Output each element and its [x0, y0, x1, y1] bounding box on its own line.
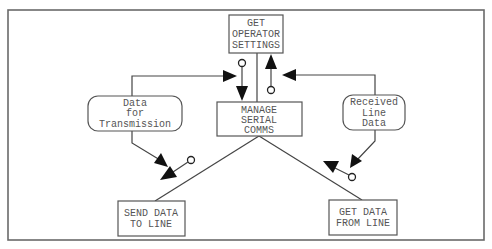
couple-circle-icon — [239, 60, 246, 67]
couple-circle-icon — [349, 174, 356, 181]
couple-circle-icon — [268, 87, 275, 94]
svg-text:TO LINE: TO LINE — [130, 219, 172, 230]
flow-transmission-to-send — [132, 131, 160, 160]
svg-text:Received: Received — [350, 97, 398, 108]
svg-text:SETTINGS: SETTINGS — [232, 40, 280, 51]
connector-manage-to-getdata — [259, 136, 362, 200]
store-received-line-data: Received Line Data — [343, 95, 405, 130]
arrowhead-upleft-icon — [323, 161, 339, 173]
svg-text:GET: GET — [247, 18, 265, 29]
structure-chart-diagram: GET OPERATOR SETTINGS MANAGE SERIAL COMM… — [0, 0, 492, 249]
module-send-data-to-line: SEND DATA TO LINE — [118, 201, 185, 236]
couple-circle-icon — [188, 157, 195, 164]
svg-text:for: for — [126, 108, 144, 119]
svg-text:SEND DATA: SEND DATA — [124, 208, 178, 219]
arrowhead-down-icon — [236, 86, 248, 101]
svg-text:COMMS: COMMS — [244, 125, 274, 136]
store-data-for-transmission: Data for Transmission — [88, 96, 182, 131]
arrowhead-right-icon — [223, 70, 237, 82]
module-manage-serial-comms: MANAGE SERIAL COMMS — [217, 102, 302, 136]
flow-transmission-to-manage — [132, 76, 225, 96]
arrowhead-up-icon — [265, 54, 277, 69]
arrowhead-left-icon — [282, 69, 296, 81]
svg-text:GET DATA: GET DATA — [339, 207, 387, 218]
arrowhead-downright-icon — [154, 153, 168, 167]
couple-send-line — [173, 162, 188, 172]
arrowhead-downleft-icon — [160, 166, 177, 180]
couple-getdata-line — [335, 168, 349, 175]
module-get-data-from-line: GET DATA FROM LINE — [329, 200, 397, 235]
flow-received-to-getdata — [357, 130, 375, 160]
module-get-operator-settings: GET OPERATOR SETTINGS — [229, 15, 283, 53]
svg-text:OPERATOR: OPERATOR — [232, 29, 280, 40]
svg-text:FROM LINE: FROM LINE — [336, 218, 390, 229]
flow-received-to-manage — [294, 75, 375, 95]
svg-text:Transmission: Transmission — [99, 119, 171, 130]
svg-text:Data: Data — [362, 118, 386, 129]
